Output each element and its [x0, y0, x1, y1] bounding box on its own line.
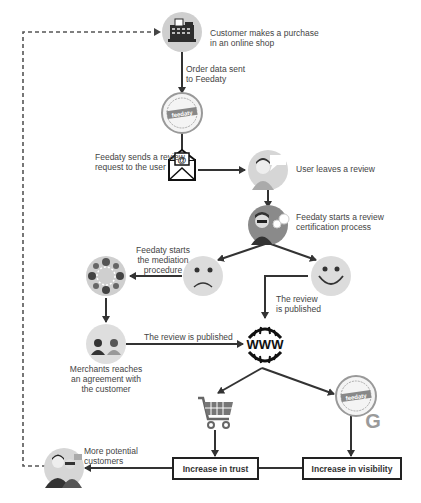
increase-in-visibility-box: Increase in visibility	[302, 457, 402, 480]
label-review-published-left: The review is published	[144, 332, 233, 342]
label-certification-process: Feedaty starts a review certification pr…	[296, 212, 384, 232]
label-more-customers: More potential customers	[84, 446, 138, 466]
label-customer-purchase: Customer makes a purchase in an online s…	[210, 28, 319, 48]
user-review-icon	[248, 150, 288, 190]
label-review-published-right: The review is published	[276, 294, 321, 314]
certification-gears-icon	[248, 205, 289, 245]
label-mediation-procedure: Feedaty starts the mediation procedure	[128, 245, 198, 275]
arrow-certification-to-happy	[268, 243, 316, 260]
shopping-cart-icon	[198, 398, 233, 428]
arrow-www-to-cart	[218, 368, 262, 393]
feedaty-google-seal-icon: feedaty G	[336, 376, 381, 432]
happy-face-icon	[311, 256, 351, 296]
arrow-www-to-feedaty-google	[262, 368, 334, 394]
customers-group-icon	[44, 448, 84, 488]
svg-text:WWW: WWW	[247, 337, 285, 352]
cash-register-icon	[162, 12, 202, 52]
increase-in-trust-box: Increase in trust	[172, 457, 259, 480]
merchant-customer-icon	[86, 324, 126, 364]
svg-text:G: G	[365, 410, 381, 432]
increase-in-trust-label: Increase in trust	[183, 464, 249, 474]
label-review-request: Feedaty sends a review request to the us…	[95, 152, 185, 172]
arrow-certification-to-sad	[218, 243, 268, 260]
label-merchants-agreement: Merchants reaches an agreement with the …	[56, 364, 156, 394]
feedaty-flow-diagram: feedaty @	[0, 0, 421, 503]
www-globe-icon: WWW	[247, 327, 285, 363]
increase-in-visibility-label: Increase in visibility	[312, 464, 393, 474]
mediation-team-icon	[86, 256, 126, 296]
label-order-data-sent: Order data sent to Feedaty	[186, 64, 245, 84]
label-user-leaves-review: User leaves a review	[296, 164, 375, 174]
feedaty-certified-seal-icon: feedaty	[162, 93, 202, 133]
